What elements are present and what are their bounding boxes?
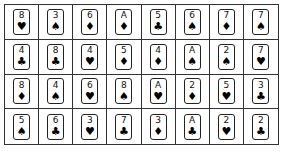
card-rank: A (121, 11, 127, 20)
grid-cell[interactable]: 4♦ (142, 40, 176, 75)
playing-card[interactable]: 4♦ (150, 44, 167, 70)
playing-card[interactable]: 2♠ (218, 44, 235, 70)
playing-card[interactable]: 4♥ (81, 44, 98, 70)
grid-cell[interactable]: 6♠ (176, 5, 210, 40)
grid-cell[interactable]: 7♥ (244, 40, 278, 75)
playing-card[interactable]: 2♣ (252, 114, 269, 140)
grid-cell[interactable]: 5♠ (5, 109, 39, 144)
card-rank: 3 (155, 116, 161, 125)
playing-card[interactable]: 6♣ (47, 114, 64, 140)
club-icon: ♣ (51, 56, 61, 67)
grid-cell[interactable]: 4♠ (39, 75, 73, 110)
card-rank: 8 (53, 46, 59, 55)
heart-icon: ♥ (221, 91, 231, 102)
playing-card[interactable]: 2♦ (184, 78, 201, 104)
grid-cell[interactable]: 4♣ (5, 40, 39, 75)
card-rank: 2 (223, 116, 229, 125)
playing-card[interactable]: 7♠ (252, 9, 269, 35)
club-icon: ♣ (187, 126, 197, 137)
card-rank: 6 (87, 11, 93, 20)
grid-cell[interactable]: 5♣ (142, 5, 176, 40)
grid-cell[interactable]: 5♦ (107, 40, 141, 75)
card-rank: 7 (258, 11, 264, 20)
playing-card[interactable]: 6♥ (81, 78, 98, 104)
card-rank: 5 (19, 116, 25, 125)
grid-cell[interactable]: 8♣ (39, 40, 73, 75)
playing-card[interactable]: 4♠ (47, 78, 64, 104)
spade-icon: ♠ (187, 21, 197, 32)
diamond-icon: ♦ (153, 126, 163, 137)
playing-card[interactable]: A♣ (184, 114, 201, 140)
playing-card[interactable]: 8♥ (13, 9, 30, 35)
grid-cell[interactable]: A♦ (107, 5, 141, 40)
playing-card[interactable]: 5♣ (150, 9, 167, 35)
grid-cell[interactable]: A♣ (176, 109, 210, 144)
grid-cell[interactable]: 8♥ (5, 5, 39, 40)
playing-card[interactable]: 4♣ (13, 44, 30, 70)
club-icon: ♣ (256, 91, 266, 102)
spade-icon: ♠ (187, 56, 197, 67)
spade-icon: ♠ (119, 91, 129, 102)
grid-cell[interactable]: 6♣ (39, 109, 73, 144)
playing-card[interactable]: A♦ (115, 9, 132, 35)
playing-card[interactable]: 8♣ (47, 44, 64, 70)
grid-cell[interactable]: 2♥ (210, 109, 244, 144)
heart-icon: ♥ (85, 126, 95, 137)
card-rank: 7 (223, 11, 229, 20)
card-rank: 6 (53, 116, 59, 125)
playing-card[interactable]: 7♦ (218, 9, 235, 35)
card-rank: 4 (19, 46, 25, 55)
grid-cell[interactable]: 3♣ (244, 75, 278, 110)
heart-icon: ♥ (85, 91, 95, 102)
playing-card[interactable]: 5♥ (218, 78, 235, 104)
grid-cell[interactable]: 5♥ (210, 75, 244, 110)
playing-card[interactable]: 7♥ (252, 44, 269, 70)
grid-cell[interactable]: 2♠ (210, 40, 244, 75)
spade-icon: ♠ (17, 126, 27, 137)
grid-cell[interactable]: 8♦ (5, 75, 39, 110)
playing-card[interactable]: 3♣ (252, 78, 269, 104)
spade-icon: ♠ (51, 91, 61, 102)
grid-cell[interactable]: 6♦ (73, 5, 107, 40)
grid-cell[interactable]: 4♥ (73, 40, 107, 75)
grid-cell[interactable]: 7♦ (210, 5, 244, 40)
playing-card[interactable]: A♠ (184, 44, 201, 70)
card-rank: 4 (87, 46, 93, 55)
playing-card[interactable]: 7♣ (115, 114, 132, 140)
diamond-icon: ♦ (153, 56, 163, 67)
grid-cell[interactable]: 7♠ (244, 5, 278, 40)
playing-card[interactable]: A♥ (150, 78, 167, 104)
grid-cell[interactable]: 2♦ (176, 75, 210, 110)
heart-icon: ♥ (256, 56, 266, 67)
grid-cell[interactable]: 6♥ (73, 75, 107, 110)
grid-cell[interactable]: 8♠ (107, 75, 141, 110)
playing-card[interactable]: 5♠ (13, 114, 30, 140)
grid-cell[interactable]: A♥ (142, 75, 176, 110)
playing-card[interactable]: 5♦ (115, 44, 132, 70)
grid-cell[interactable]: 7♣ (107, 109, 141, 144)
card-rank: 8 (121, 81, 127, 90)
card-rank: A (155, 81, 161, 90)
playing-card[interactable]: 3♦ (150, 114, 167, 140)
grid-cell[interactable]: 3♦ (142, 109, 176, 144)
card-rank: 5 (121, 46, 127, 55)
grid-cell[interactable]: 2♣ (244, 109, 278, 144)
grid-cell[interactable]: A♠ (176, 40, 210, 75)
spade-icon: ♠ (221, 56, 231, 67)
playing-card[interactable]: 6♦ (81, 9, 98, 35)
playing-card[interactable]: 3♥ (81, 114, 98, 140)
grid-cell[interactable]: 3♥ (73, 109, 107, 144)
card-rank: 3 (87, 116, 93, 125)
playing-card[interactable]: 8♠ (115, 78, 132, 104)
playing-card[interactable]: 6♠ (184, 9, 201, 35)
playing-card[interactable]: 8♦ (13, 78, 30, 104)
diamond-icon: ♦ (187, 91, 197, 102)
grid-cell[interactable]: 3♠ (39, 5, 73, 40)
card-rank: 2 (258, 116, 264, 125)
playing-card[interactable]: 2♥ (218, 114, 235, 140)
diamond-icon: ♦ (85, 21, 95, 32)
playing-card[interactable]: 3♠ (47, 9, 64, 35)
club-icon: ♣ (119, 126, 129, 137)
club-icon: ♣ (153, 21, 163, 32)
card-rank: A (189, 116, 195, 125)
